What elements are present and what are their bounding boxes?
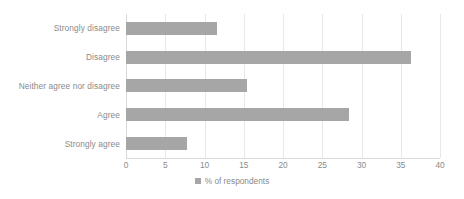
category-label: Agree [97, 100, 120, 129]
bar[interactable] [126, 79, 247, 92]
x-tick-label: 40 [435, 160, 444, 170]
bar-row [126, 43, 440, 72]
x-tick-label: 25 [318, 160, 327, 170]
bar[interactable] [126, 51, 411, 64]
category-label: Disagree [86, 43, 120, 72]
gridline [440, 14, 441, 158]
bar-chart: Strongly disagreeDisagreeNeither agree n… [0, 0, 464, 199]
bar[interactable] [126, 137, 187, 150]
x-tick-label: 30 [357, 160, 366, 170]
bar[interactable] [126, 108, 349, 121]
bar-row [126, 72, 440, 101]
x-tick-label: 15 [239, 160, 248, 170]
category-axis: Strongly disagreeDisagreeNeither agree n… [0, 14, 120, 158]
x-tick-label: 35 [396, 160, 405, 170]
bar-row [126, 100, 440, 129]
category-label: Neither agree nor disagree [19, 72, 120, 101]
x-tick-label: 20 [278, 160, 287, 170]
category-label: Strongly disagree [54, 14, 120, 43]
x-tick-label: 5 [163, 160, 168, 170]
bar-rows [126, 14, 440, 158]
x-tick-label: 0 [124, 160, 129, 170]
legend-swatch-icon [195, 178, 201, 184]
x-axis-ticks: 0510152025303540 [126, 160, 440, 174]
category-label: Strongly agree [65, 129, 120, 158]
bar-row [126, 14, 440, 43]
chart-legend: % of respondents [0, 176, 464, 186]
x-tick-label: 10 [200, 160, 209, 170]
x-axis-line [126, 158, 440, 159]
plot-area [126, 14, 440, 158]
bar[interactable] [126, 22, 217, 35]
bar-row [126, 129, 440, 158]
legend-label: % of respondents [205, 176, 270, 186]
